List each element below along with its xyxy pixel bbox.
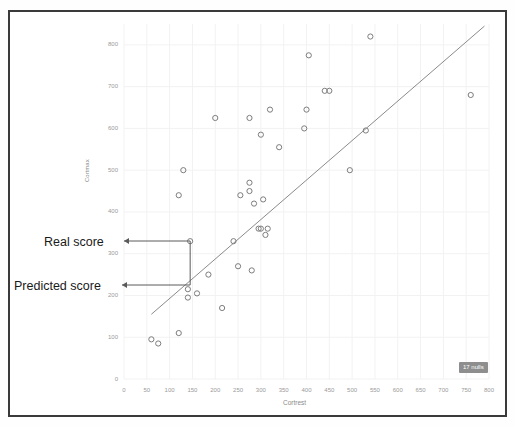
y-tick-600: 600 (94, 125, 118, 131)
x-tick-600: 600 (386, 387, 410, 393)
x-tick-650: 650 (409, 387, 433, 393)
data-point[interactable] (468, 92, 473, 97)
annotation-real-score: Real score (44, 235, 104, 249)
data-point[interactable] (176, 330, 181, 335)
x-tick-100: 100 (158, 387, 182, 393)
x-tick-550: 550 (363, 387, 387, 393)
x-tick-450: 450 (317, 387, 341, 393)
x-tick-50: 50 (135, 387, 159, 393)
data-point[interactable] (263, 232, 268, 237)
y-tick-100: 100 (94, 334, 118, 340)
scatter-plot: Cortmax Cortrest 01002003004005006007008… (0, 0, 515, 427)
x-axis-title: Cortrest (283, 399, 306, 406)
data-point[interactable] (368, 34, 373, 39)
x-tick-200: 200 (203, 387, 227, 393)
data-point[interactable] (249, 268, 254, 273)
y-tick-800: 800 (94, 41, 118, 47)
data-point[interactable] (219, 305, 224, 310)
data-point[interactable] (247, 115, 252, 120)
x-tick-700: 700 (431, 387, 455, 393)
data-point[interactable] (247, 180, 252, 185)
y-tick-700: 700 (94, 83, 118, 89)
y-tick-300: 300 (94, 250, 118, 256)
nulls-badge[interactable]: 17 nulls (459, 362, 488, 373)
data-point[interactable] (176, 193, 181, 198)
x-tick-0: 0 (112, 387, 136, 393)
x-tick-800: 800 (477, 387, 501, 393)
annotation-predicted-score: Predicted score (14, 279, 101, 293)
data-point[interactable] (185, 287, 190, 292)
annotation-leader-lines (122, 238, 190, 288)
screenshot-root: Cortmax Cortrest 01002003004005006007008… (0, 0, 515, 427)
y-tick-400: 400 (94, 208, 118, 214)
y-tick-500: 500 (94, 167, 118, 173)
data-point[interactable] (267, 107, 272, 112)
data-point[interactable] (247, 188, 252, 193)
x-tick-400: 400 (295, 387, 319, 393)
x-tick-150: 150 (180, 387, 204, 393)
data-point[interactable] (206, 272, 211, 277)
data-point[interactable] (251, 201, 256, 206)
data-point[interactable] (265, 226, 270, 231)
x-tick-350: 350 (272, 387, 296, 393)
x-tick-750: 750 (454, 387, 478, 393)
x-tick-300: 300 (249, 387, 273, 393)
arrowhead-icon (124, 238, 129, 244)
data-point[interactable] (277, 145, 282, 150)
data-point[interactable] (156, 341, 161, 346)
plot-canvas (0, 0, 515, 427)
x-tick-250: 250 (226, 387, 250, 393)
data-points (149, 34, 474, 346)
x-tick-500: 500 (340, 387, 364, 393)
y-tick-0: 0 (94, 376, 118, 382)
y-axis-title: Cortmax (84, 159, 90, 182)
gridlines (124, 24, 489, 379)
